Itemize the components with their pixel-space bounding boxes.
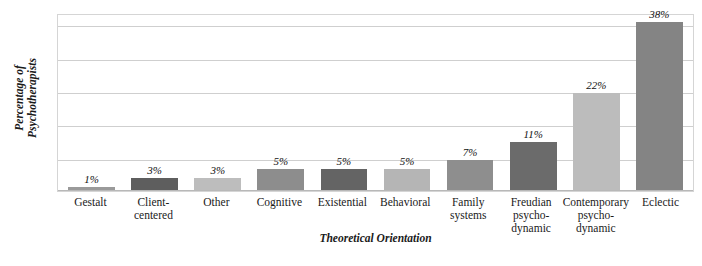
bar[interactable] — [321, 169, 368, 191]
bar-group: 1% — [60, 15, 123, 191]
bar[interactable] — [257, 169, 304, 191]
bar-group: 22% — [565, 15, 628, 191]
bar-value-label: 11% — [502, 128, 565, 140]
axis-baseline — [58, 190, 693, 191]
bar-value-label: 1% — [60, 173, 123, 185]
bar-group: 11% — [502, 15, 565, 191]
bar-value-label: 3% — [123, 164, 186, 176]
y-axis-title-line-1: Percentage of — [13, 58, 26, 138]
plot-area: 1%3%3%5%5%5%7%11%22%38% — [57, 14, 694, 192]
bar-value-label: 5% — [312, 155, 375, 167]
bar[interactable] — [447, 160, 494, 191]
bar[interactable] — [573, 93, 620, 191]
bar-value-label: 22% — [565, 79, 628, 91]
bar-group: 3% — [186, 15, 249, 191]
bar[interactable] — [384, 169, 431, 191]
bar-value-label: 38% — [628, 8, 691, 20]
bar-group: 5% — [312, 15, 375, 191]
bar-group: 5% — [375, 15, 438, 191]
bar[interactable] — [131, 178, 178, 191]
bar[interactable] — [636, 22, 683, 191]
bar-group: 3% — [123, 15, 186, 191]
bar-value-label: 5% — [375, 155, 438, 167]
y-axis-title: Percentage of Psychotherapists — [0, 0, 52, 196]
bar-group: 38% — [628, 15, 691, 191]
bar-group: 5% — [249, 15, 312, 191]
bar-group: 7% — [439, 15, 502, 191]
bars-layer: 1%3%3%5%5%5%7%11%22%38% — [58, 15, 693, 191]
bar[interactable] — [194, 178, 241, 191]
bar[interactable] — [510, 142, 557, 191]
bar-value-label: 7% — [439, 146, 502, 158]
bar-value-label: 5% — [249, 155, 312, 167]
x-axis-title: Theoretical Orientation — [57, 232, 694, 244]
bar-value-label: 3% — [186, 164, 249, 176]
bar-chart-figure: Percentage of Psychotherapists 1%3%3%5%5… — [0, 0, 702, 266]
y-axis-title-line-2: Psychotherapists — [26, 58, 39, 138]
